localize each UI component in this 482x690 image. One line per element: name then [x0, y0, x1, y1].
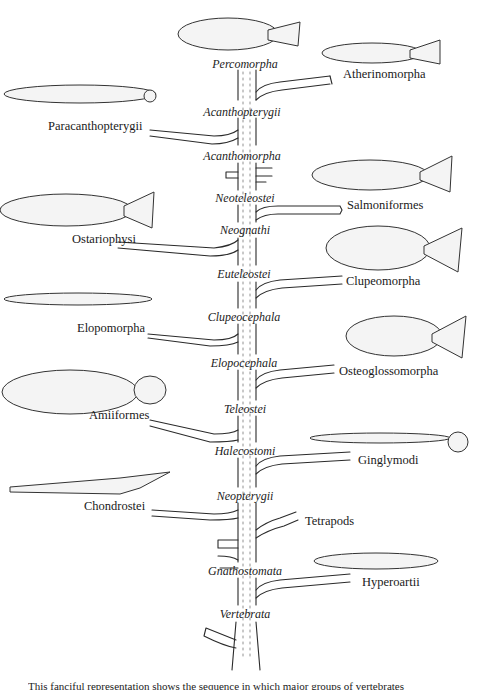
taxon-label-ginglymodi: Ginglymodi	[358, 453, 418, 468]
fish-atherinomorpha-illustration	[322, 40, 440, 64]
node-label-acanthopterygii: Acanthopterygii	[203, 105, 280, 120]
figure-caption: This fanciful representation shows the s…	[28, 679, 468, 690]
taxon-label-amiiformes: Amiiformes	[89, 408, 149, 423]
taxon-label-chondrostei: Chondrostei	[84, 499, 145, 514]
node-label-gnathostomata: Gnathostomata	[208, 564, 282, 579]
taxon-label-hyperoartii: Hyperoartii	[362, 575, 420, 590]
fish-osteoglossomorpha-illustration	[346, 316, 466, 358]
node-label-teleostei: Teleostei	[224, 402, 266, 417]
fish-clupeomorpha-illustration	[326, 226, 462, 272]
node-label-neopterygii: Neopterygii	[217, 489, 274, 504]
taxon-label-osteoglossomorpha: Osteoglossomorpha	[339, 364, 438, 379]
fish-ostariophysi-illustration	[0, 192, 154, 228]
fish-percomorpha-illustration	[178, 18, 300, 50]
phylogeny-figure: Percomorpha Acanthopterygii Acanthomorph…	[0, 0, 482, 690]
node-label-halecostomi: Halecostomi	[215, 444, 276, 459]
node-label-vertebrata: Vertebrata	[220, 607, 271, 622]
node-label-euteleostei: Euteleostei	[217, 267, 270, 282]
fish-chondrostei-illustration	[10, 472, 170, 494]
taxon-label-clupeomorpha: Clupeomorpha	[346, 274, 420, 289]
fish-hyperoartii-illustration	[314, 553, 438, 569]
taxon-label-paracanthopterygii: Paracanthopterygii	[48, 119, 142, 134]
taxon-label-salmoniformes: Salmoniformes	[347, 198, 423, 213]
fish-ginglymodi-illustration	[310, 432, 468, 452]
taxon-label-atherinomorpha: Atherinomorpha	[343, 67, 426, 82]
taxon-label-ostariophysi: Ostariophysi	[72, 232, 136, 247]
taxon-label-tetrapods: Tetrapods	[305, 514, 354, 529]
node-label-neoteleostei: Neoteleostei	[215, 191, 274, 206]
fish-paracanthopterygii-illustration	[4, 85, 156, 103]
node-label-clupeocephala: Clupeocephala	[208, 310, 281, 325]
node-label-elopocephala: Elopocephala	[211, 356, 278, 371]
taxon-label-elopomorpha: Elopomorpha	[77, 321, 145, 336]
node-label-neognathi: Neognathi	[220, 223, 270, 238]
node-label-acanthomorpha: Acanthomorpha	[203, 149, 280, 164]
node-label-percomorpha: Percomorpha	[212, 57, 278, 72]
fish-elopomorpha-illustration	[4, 293, 152, 305]
fish-salmoniformes-illustration	[312, 156, 452, 192]
